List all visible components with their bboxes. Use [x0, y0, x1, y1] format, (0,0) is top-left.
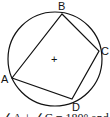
vertex-label-c: C — [101, 45, 109, 57]
vertex-label-b: B — [58, 0, 65, 12]
vertex-label-a: A — [1, 73, 9, 85]
center-mark: + — [51, 53, 57, 65]
angle-caption: ∠A + ∠C = 180° and — [2, 111, 109, 117]
cyclic-quadrilateral-diagram: + A B C D ∠A + ∠C = 180° and — [0, 0, 110, 117]
